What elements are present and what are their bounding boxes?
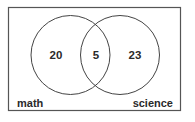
math-set-label: math	[17, 97, 44, 109]
intersection-count: 5	[93, 49, 100, 61]
science-only-count: 23	[129, 49, 142, 61]
math-only-count: 20	[50, 49, 63, 61]
venn-diagram: 20 5 23 math science	[0, 0, 195, 122]
science-set-label: science	[133, 97, 173, 109]
